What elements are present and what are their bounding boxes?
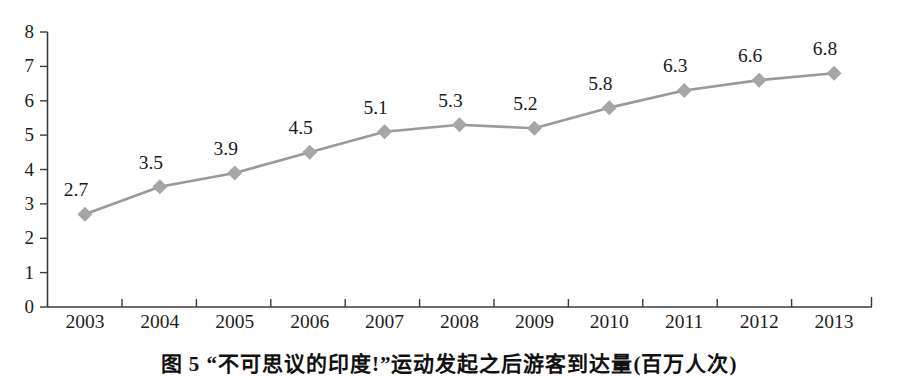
y-axis-tick-label: 7 — [8, 56, 34, 75]
y-axis-tick-label: 6 — [8, 91, 34, 110]
x-axis-tick-label: 2003 — [50, 312, 120, 331]
data-point-label: 5.8 — [576, 74, 624, 94]
figure-container: 012345678 200320042005200620072008200920… — [0, 0, 898, 377]
data-point-label: 5.3 — [427, 91, 475, 111]
y-axis-tick-label: 4 — [8, 160, 34, 179]
data-point-label: 5.1 — [352, 98, 400, 118]
y-axis-tick-label: 3 — [8, 194, 34, 213]
x-axis-tick-label: 2010 — [574, 312, 644, 331]
data-point-label: 3.5 — [127, 153, 175, 173]
x-axis-tick-label: 2012 — [724, 312, 794, 331]
x-axis-tick-label: 2007 — [350, 312, 420, 331]
data-point-label: 6.8 — [801, 39, 849, 59]
line-chart: 012345678 200320042005200620072008200920… — [0, 0, 898, 340]
x-axis-tick-label: 2013 — [799, 312, 869, 331]
y-axis-tick-label: 2 — [8, 228, 34, 247]
x-axis-tick-label: 2008 — [425, 312, 495, 331]
x-axis-tick-label: 2011 — [649, 312, 719, 331]
data-point-label: 6.6 — [726, 46, 774, 66]
x-axis-tick-label: 2009 — [499, 312, 569, 331]
data-point-label: 2.7 — [52, 180, 100, 200]
y-axis-tick-label: 1 — [8, 263, 34, 282]
x-axis-tick-label: 2004 — [125, 312, 195, 331]
y-axis-tick-label: 8 — [8, 22, 34, 41]
x-axis-tick-label: 2006 — [275, 312, 345, 331]
data-point-label: 4.5 — [277, 118, 325, 138]
figure-caption: 图 5 “不可思议的印度!”运动发起之后游客到达量(百万人次) — [0, 352, 898, 376]
x-axis-tick-label: 2005 — [200, 312, 270, 331]
figure-caption-clip: 图 5 “不可思议的印度!”运动发起之后游客到达量(百万人次) — [0, 352, 898, 377]
data-point-label: 6.3 — [651, 56, 699, 76]
y-axis-tick-label: 0 — [8, 297, 34, 316]
data-point-label: 3.9 — [202, 139, 250, 159]
y-axis-tick-label: 5 — [8, 125, 34, 144]
data-point-label: 5.2 — [501, 94, 549, 114]
